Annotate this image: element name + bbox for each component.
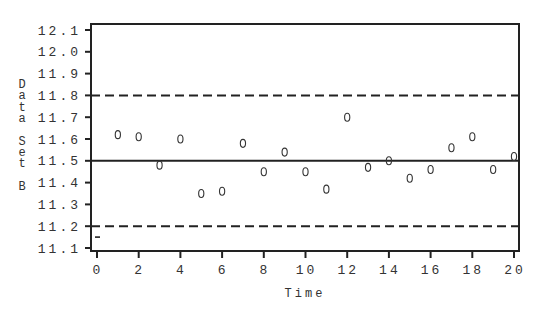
y-tick-label: 12.0 [38,45,81,60]
x-tick-label: 18 [462,263,484,278]
data-points [95,113,517,237]
data-point-marker [178,135,183,143]
data-point-marker [157,161,162,169]
x-tick-label: 12 [337,263,359,278]
data-point-marker [303,168,308,176]
reference-lines [91,95,519,226]
x-tick-label: 4 [176,263,187,278]
y-tick-label: 11.9 [38,67,81,82]
x-tick-label: 0 [93,263,104,278]
y-tick-label: 11.1 [38,242,81,257]
data-point-marker [261,168,266,176]
x-tick-label: 2 [134,263,145,278]
y-tick-label: 12.1 [38,24,81,39]
y-tick-label: 11.4 [38,176,81,191]
plot-frame [91,24,519,251]
x-tick-label: 16 [421,263,443,278]
x-tick-label: 6 [218,263,229,278]
control-chart: 12.112.011.911.811.711.611.511.411.311.2… [0,0,540,310]
x-tick-label: 10 [296,263,318,278]
x-axis-label: Time [285,287,326,301]
x-tick-label: 8 [259,263,270,278]
y-tick-label: 11.2 [38,220,81,235]
y-tick-label: 11.5 [38,154,81,169]
x-axis: 02468101214161820 [93,251,526,278]
data-point-marker [470,133,475,141]
data-point-marker [324,185,329,193]
y-axis-label-char: a [18,112,25,126]
y-axis-label-char: t [18,157,25,171]
data-point-marker [491,166,496,174]
y-tick-label: 11.8 [38,89,81,104]
x-tick-label: 20 [504,263,526,278]
data-point-marker [511,152,516,160]
y-axis: 12.112.011.911.811.711.611.511.411.311.2… [38,24,91,257]
y-axis-label: DataSetB [18,78,25,194]
y-axis-label-char: B [18,180,25,194]
data-point-marker [449,144,454,152]
data-point-marker [345,113,350,121]
y-tick-label: 11.7 [38,111,81,126]
x-tick-label: 14 [379,263,401,278]
data-point-marker [240,139,245,147]
data-point-marker [136,133,141,141]
y-tick-label: 11.6 [38,133,81,148]
data-point-marker [407,174,412,182]
data-point-marker [220,187,225,195]
data-point-marker [282,148,287,156]
data-point-marker [115,131,120,139]
data-point-marker [428,166,433,174]
data-point-marker [199,190,204,198]
data-point-marker [365,163,370,171]
y-tick-label: 11.3 [38,198,81,213]
